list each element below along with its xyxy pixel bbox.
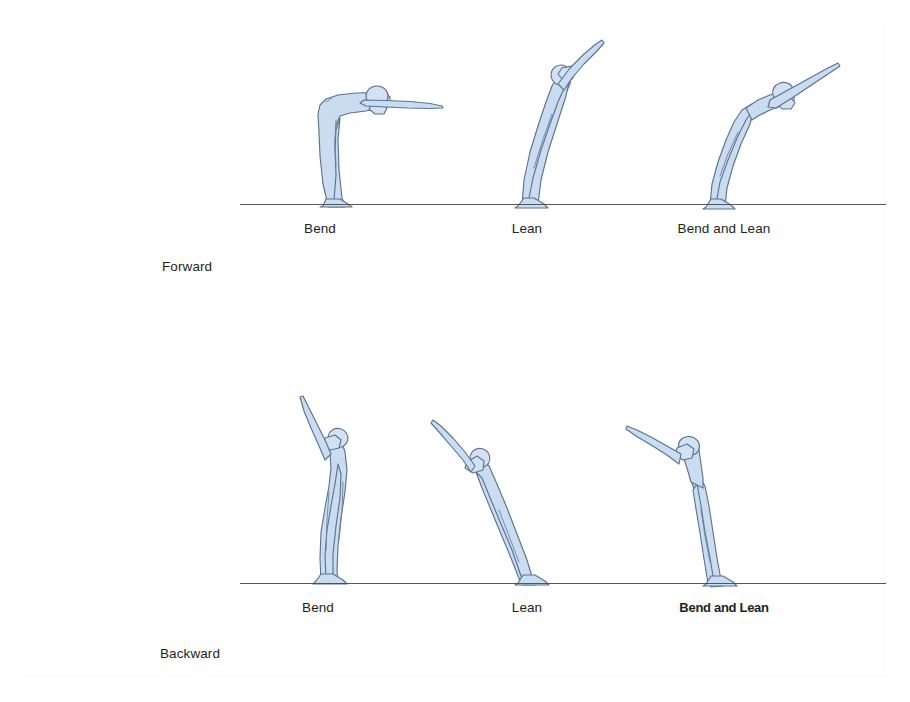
- figure-forward-lean: [500, 40, 630, 210]
- foot-shape: [320, 199, 352, 207]
- arm-shape: [300, 396, 331, 460]
- pose-label-forward-bend-and-lean: Bend and Lean: [640, 221, 808, 236]
- figure-backward-lean: [425, 418, 575, 588]
- ground-line-backward: [240, 583, 886, 584]
- far-leg-shape: [476, 472, 525, 584]
- row-label-forward: Forward: [162, 259, 212, 274]
- figure-forward-bend: [290, 80, 450, 210]
- row-label-backward: Backward: [160, 646, 220, 661]
- pose-label-forward-bend: Bend: [258, 221, 382, 236]
- arm-shape: [626, 426, 681, 464]
- pose-label-backward-bend: Bend: [256, 600, 380, 615]
- arm-shape: [431, 420, 475, 472]
- arm-shape: [558, 40, 604, 90]
- pose-label-backward-bend-and-lean: Bend and Lean: [640, 600, 808, 615]
- pose-label-backward-lean: Lean: [465, 600, 589, 615]
- foot-shape: [515, 198, 548, 208]
- pose-label-forward-lean: Lean: [465, 221, 589, 236]
- ground-line-forward: [240, 204, 886, 205]
- figure-forward-bend-and-lean: [690, 58, 860, 210]
- figure-backward-bend: [285, 388, 415, 588]
- figure-backward-bend-and-lean: [615, 420, 785, 590]
- body-shape: [473, 458, 535, 585]
- posture-diagram-page: Bend Lean Bend and Lean Forward: [0, 0, 910, 702]
